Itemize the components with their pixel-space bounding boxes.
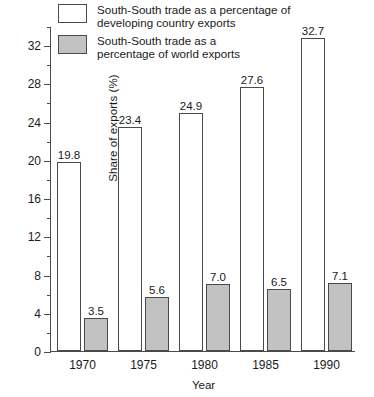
bar: 7.1 (328, 283, 352, 351)
bar: 32.7 (301, 38, 325, 351)
y-tick-major (44, 276, 51, 277)
y-tick-major (44, 84, 51, 85)
bar-value-label: 3.5 (88, 305, 104, 317)
x-tick-label: 1990 (313, 358, 340, 372)
bar: 24.9 (179, 113, 203, 351)
y-tick-major (44, 314, 51, 315)
bar: 19.8 (57, 162, 81, 351)
y-tick-major (44, 161, 51, 162)
x-axis-title: Year (51, 379, 356, 391)
y-tick-minor (47, 27, 52, 28)
x-tick-label: 1985 (252, 358, 279, 372)
bar-value-label: 5.6 (149, 284, 165, 296)
bar-value-label: 19.8 (58, 149, 80, 161)
bar-value-label: 6.5 (271, 276, 287, 288)
legend-swatch-icon (58, 35, 87, 54)
legend-item: South-South trade as a percentage of wor… (58, 34, 358, 61)
bar-value-label: 7.0 (210, 271, 226, 283)
y-tick-minor (47, 142, 52, 143)
y-tick-label: 16 (28, 192, 41, 206)
legend-label: South-South trade as a percentage of wor… (97, 34, 240, 61)
bar-value-label: 23.4 (119, 114, 141, 126)
y-tick-label: 4 (34, 307, 41, 321)
x-tick-label: 1980 (191, 358, 218, 372)
x-tick-label: 1970 (69, 358, 96, 372)
bar: 5.6 (145, 297, 169, 351)
y-tick-label: 24 (28, 116, 41, 130)
y-tick-label: 0 (34, 345, 41, 359)
y-tick-label: 32 (28, 39, 41, 53)
bar: 7.0 (206, 284, 230, 351)
y-tick-label: 8 (34, 269, 41, 283)
y-tick-major (44, 352, 51, 353)
legend-label: South-South trade as a percentage of dev… (97, 3, 290, 30)
y-tick-minor (47, 295, 52, 296)
y-tick-major (44, 237, 51, 238)
bar: 23.4 (118, 127, 142, 351)
bar-value-label: 7.1 (332, 270, 348, 282)
legend-item: South-South trade as a percentage of dev… (58, 3, 358, 30)
y-tick-major (44, 199, 51, 200)
bar-value-label: 27.6 (241, 74, 263, 86)
bar: 27.6 (240, 87, 264, 351)
y-tick-minor (47, 65, 52, 66)
y-tick-major (44, 123, 51, 124)
legend-swatch-icon (58, 4, 87, 23)
y-tick-label: 20 (28, 154, 41, 168)
y-tick-minor (47, 218, 52, 219)
bar: 6.5 (267, 289, 291, 351)
chart-legend: South-South trade as a percentage of dev… (58, 3, 358, 65)
y-tick-minor (47, 256, 52, 257)
bar: 3.5 (84, 318, 108, 351)
plot-area: Share of exports (%) Year 04812162024283… (50, 27, 355, 352)
y-tick-minor (47, 103, 52, 104)
y-tick-label: 28 (28, 77, 41, 91)
x-tick-label: 1975 (130, 358, 157, 372)
y-tick-minor (47, 333, 52, 334)
y-tick-label: 12 (28, 230, 41, 244)
y-tick-major (44, 46, 51, 47)
bar-value-label: 24.9 (180, 100, 202, 112)
y-tick-minor (47, 180, 52, 181)
bar-chart-figure: Share of exports (%) Year 04812162024283… (0, 0, 374, 397)
